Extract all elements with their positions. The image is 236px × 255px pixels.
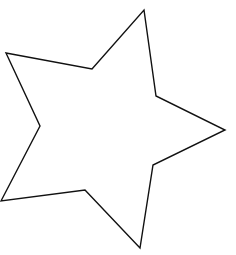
drawing-canvas	[0, 0, 236, 255]
star-outline-shape	[1, 10, 225, 248]
